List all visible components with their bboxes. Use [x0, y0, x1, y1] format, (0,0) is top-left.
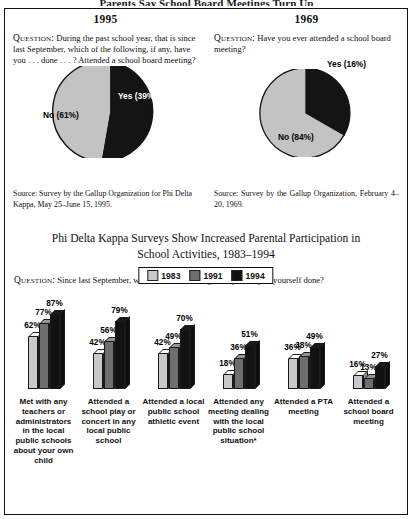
bar-face — [28, 336, 38, 389]
bar-1991: 38% — [299, 356, 309, 389]
question-label: Question: — [13, 33, 54, 43]
category-label: Attended a school board meeting — [336, 397, 401, 465]
legend-swatch-1994 — [232, 270, 243, 281]
panel-question-1969: Question: Have you ever attended a schoo… — [214, 32, 399, 55]
bar-face — [223, 374, 233, 389]
pie-slice-label-yes-1969: Yes (16%) — [327, 59, 366, 69]
category-label: Attended any meeting dealing with the lo… — [206, 397, 271, 465]
bar-face — [375, 366, 385, 389]
bar-face — [353, 375, 363, 389]
category-label: Met with any teachers or administrators … — [11, 397, 76, 465]
legend-item-1994: 1994 — [232, 270, 265, 281]
pie-chart-1969 — [214, 69, 404, 157]
bar-face — [104, 341, 114, 389]
pie-panels: 1995 Question: During the past school ye… — [5, 9, 407, 215]
legend-label-1991: 1991 — [203, 271, 222, 281]
panel-question-1995: Question: During the past school year, t… — [13, 32, 198, 66]
chart-legend: 1983 1991 1994 — [138, 267, 273, 284]
bar-face — [299, 356, 309, 389]
bar-face — [169, 347, 179, 389]
bar-group: 36%38%49% — [271, 289, 336, 389]
bar-face — [180, 329, 190, 389]
bar-value-label: 27% — [371, 351, 387, 360]
legend-swatch-1991 — [189, 270, 200, 281]
bar-face — [50, 314, 60, 389]
bar-1991: 36% — [234, 358, 244, 389]
bar-group: 42%56%79% — [76, 289, 141, 389]
bar-side-face — [190, 324, 195, 389]
bar-group: 16%13%27% — [336, 289, 401, 389]
bar-chart-title-line1: Phi Delta Kappa Surveys Show Increased P… — [52, 232, 360, 245]
panel-source-1995: Source: Survey by the Gallup Organizatio… — [13, 189, 198, 210]
bar-groups: 62%77%87%42%56%79%42%49%70%18%36%51%36%3… — [11, 289, 401, 389]
panel-1969: 1969 Question: Have you ever attended a … — [206, 9, 407, 215]
bar-group: 42%49%70% — [141, 289, 206, 389]
bar-1994: 49% — [310, 347, 320, 389]
bar-side-face — [125, 316, 130, 389]
bar-value-label: 70% — [176, 314, 192, 323]
bar-group: 62%77%87% — [11, 289, 76, 389]
bar-face — [39, 323, 49, 389]
panel-year-1995: 1995 — [13, 13, 198, 25]
bar-1983: 18% — [223, 374, 233, 389]
bar-chart-title-line2: School Activities, 1983–1994 — [137, 248, 275, 261]
category-labels: Met with any teachers or administrators … — [11, 397, 401, 465]
bar-side-face — [320, 342, 325, 389]
bar-1983: 42% — [93, 353, 103, 389]
pie-slice-label-no-1969: No (84%) — [278, 132, 314, 142]
category-label: Attended a local public school athletic … — [141, 397, 206, 465]
bar-group: 18%36%51% — [206, 289, 271, 389]
bar-1983: 36% — [288, 358, 298, 389]
bar-value-label: 79% — [111, 306, 127, 315]
panel-1995: 1995 Question: During the past school ye… — [5, 9, 206, 215]
bar-1983: 62% — [28, 336, 38, 389]
bar-face — [310, 347, 320, 389]
clipped-page-headline: Parents Say School Board Meetings Turn U… — [0, 0, 413, 6]
bar-face — [115, 321, 125, 389]
bar-chart-section: Phi Delta Kappa Surveys Show Increased P… — [5, 215, 407, 514]
bar-1991: 49% — [169, 347, 179, 389]
bar-face — [158, 353, 168, 389]
legend-label-1994: 1994 — [246, 271, 265, 281]
category-label: Attended a PTA meeting — [271, 397, 336, 465]
figure-frame: 1995 Question: During the past school ye… — [4, 8, 408, 515]
question-label: Question: — [214, 33, 255, 43]
legend-label-1983: 1983 — [161, 271, 180, 281]
bar-chart-title: Phi Delta Kappa Surveys Show Increased P… — [21, 231, 391, 262]
bar-face — [288, 358, 298, 389]
panel-source-1969: Source: Survey by the Gallup Organizatio… — [214, 189, 399, 210]
bar-1983: 16% — [353, 375, 363, 389]
question-label: Question: — [14, 275, 55, 285]
bar-1991: 77% — [39, 323, 49, 389]
panel-year-1969: 1969 — [214, 13, 399, 25]
pie-slice-label-yes-1995: Yes (39%) — [118, 91, 157, 101]
pie-chart-1969-wrap: Yes (16%) No (84%) — [214, 69, 399, 161]
bar-value-label: 49% — [306, 332, 322, 341]
bar-chart-plot: 62%77%87%42%56%79%42%49%70%18%36%51%36%3… — [11, 289, 401, 389]
bar-side-face — [60, 309, 65, 389]
bar-side-face — [255, 340, 260, 389]
bar-1994: 87% — [50, 314, 60, 389]
bar-face — [245, 345, 255, 389]
legend-swatch-1983 — [147, 270, 158, 281]
bar-1991: 13% — [364, 378, 374, 389]
bar-1994: 70% — [180, 329, 190, 389]
pie-chart-1995-wrap: Yes (39%) No (61%) — [13, 66, 198, 162]
bar-1991: 56% — [104, 341, 114, 389]
legend-item-1983: 1983 — [147, 270, 180, 281]
category-label: Attended a school play or concert in any… — [76, 397, 141, 465]
bar-value-label: 51% — [241, 330, 257, 339]
bar-face — [364, 378, 374, 389]
bar-value-label: 87% — [46, 299, 62, 308]
bar-face — [234, 358, 244, 389]
bar-1983: 42% — [158, 353, 168, 389]
legend-item-1991: 1991 — [189, 270, 222, 281]
bar-1994: 27% — [375, 366, 385, 389]
figure-page: Parents Say School Board Meetings Turn U… — [0, 0, 413, 519]
bar-1994: 51% — [245, 345, 255, 389]
bar-1994: 79% — [115, 321, 125, 389]
bar-face — [93, 353, 103, 389]
pie-slice-label-no-1995: No (61%) — [43, 110, 79, 120]
